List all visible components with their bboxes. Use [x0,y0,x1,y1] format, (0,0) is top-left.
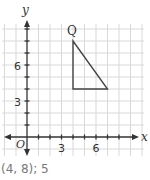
coordinate-plane: y x O 3 6 3 6 Q [0,0,150,160]
y-tick-label-3: 3 [14,96,21,109]
y-axis [24,20,30,156]
vertex-q-label: Q [67,24,77,38]
x-tick-label-6: 6 [93,142,100,155]
answer-text: (4, 8); 5 [1,162,49,176]
origin-label: O [16,138,25,151]
x-axis-label: x [141,130,148,144]
x-tick-label-3: 3 [58,142,65,155]
y-axis-label: y [21,3,29,17]
y-tick-label-6: 6 [14,60,21,73]
